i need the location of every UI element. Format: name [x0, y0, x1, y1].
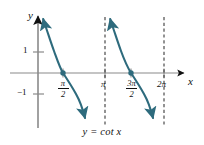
x-tick-label-3pi-over-2: 3π 2 [123, 79, 140, 98]
plot-canvas [0, 0, 204, 145]
cotangent-graph-figure: y x 1 −1 π 2 π 3π 2 2π y = cot x [0, 0, 204, 145]
y-tick-label-neg1: −1 [17, 88, 27, 97]
cot-branch-first [44, 22, 85, 118]
y-axis-label: y [28, 10, 33, 21]
x-tick-label-pi-over-2-denominator: 2 [56, 90, 70, 99]
x-tick-label-2pi: 2π [157, 80, 166, 89]
cot-branch-first-top-arrow [43, 19, 45, 26]
cot-branch-second [111, 22, 153, 118]
figure-caption: y = cot x [0, 126, 204, 137]
x-tick-label-3pi-over-2-denominator: 2 [123, 90, 140, 99]
cot-branch-second-top-arrow [110, 19, 112, 26]
x-tick-label-pi-over-2-numerator: π [56, 79, 70, 88]
x-tick-label-3pi-over-2-numerator: 3π [123, 79, 140, 88]
x-tick-label-pi: π [101, 80, 106, 89]
x-axis-label: x [188, 76, 193, 87]
y-tick-label-1: 1 [23, 46, 28, 55]
zero-point-pi-over-2 [60, 70, 65, 75]
zero-point-3pi-over-2 [128, 70, 133, 75]
x-tick-label-pi-over-2: π 2 [56, 79, 70, 98]
